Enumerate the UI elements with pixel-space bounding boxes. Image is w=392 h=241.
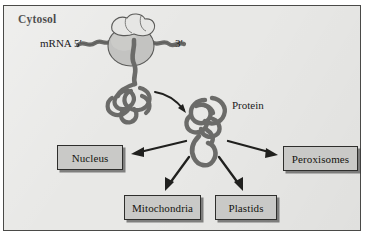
page-title: Cytosol bbox=[18, 13, 56, 25]
organelle-box-nucleus[interactable]: Nucleus bbox=[57, 145, 123, 170]
organelle-box-plastids-label: Plastids bbox=[228, 202, 263, 214]
organelle-box-nucleus-label: Nucleus bbox=[72, 152, 109, 164]
organelle-box-mitochondria-label: Mitochondria bbox=[132, 202, 193, 214]
organelle-box-peroxisomes[interactable]: Peroxisomes bbox=[283, 146, 358, 171]
organelle-box-mitochondria[interactable]: Mitochondria bbox=[124, 195, 201, 220]
figure-root: Cytosol bbox=[0, 0, 392, 241]
protein-label: Protein bbox=[232, 99, 264, 111]
three-prime-label: 3′ bbox=[175, 37, 183, 49]
mrna-label: mRNA 5′ bbox=[40, 37, 82, 49]
organelle-box-plastids[interactable]: Plastids bbox=[215, 195, 277, 220]
organelle-box-peroxisomes-label: Peroxisomes bbox=[292, 153, 349, 165]
